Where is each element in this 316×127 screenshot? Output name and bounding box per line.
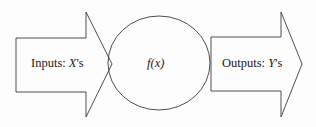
outputs-label: Outputs: Y's [222, 57, 282, 70]
input-output-function-diagram: Inputs: X's f(x) Outputs: Y's [0, 0, 316, 127]
function-label: f(x) [147, 57, 164, 70]
outputs-label-suffix: 's [275, 56, 282, 70]
inputs-label-suffix: 's [77, 56, 84, 70]
outputs-label-prefix: Outputs: [222, 56, 268, 70]
inputs-label-variable: X [69, 56, 77, 70]
inputs-label-prefix: Inputs: [31, 56, 69, 70]
inputs-label: Inputs: X's [31, 57, 84, 70]
